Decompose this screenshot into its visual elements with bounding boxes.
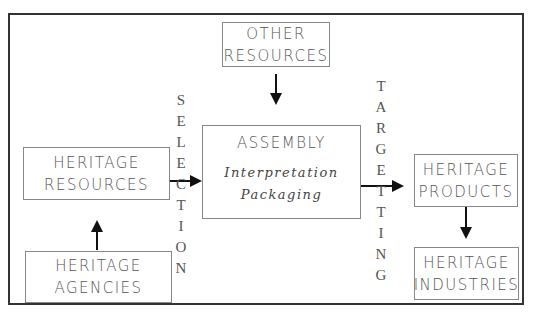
node-label-line: AGENCIES (54, 277, 142, 299)
node-label-line: RESOURCES (44, 174, 149, 196)
letter: N (176, 258, 187, 279)
letter: G (376, 265, 387, 286)
node-label-line: RESOURCES (224, 45, 329, 67)
letter: N (376, 244, 387, 265)
letter: G (376, 139, 387, 160)
letter: E (176, 153, 185, 174)
letter: E (176, 111, 185, 132)
letter: S (177, 90, 185, 111)
node-assembly: ASSEMBLY Interpretation Packaging (202, 125, 361, 219)
node-heritage-resources: HERITAGE RESOURCES (23, 147, 170, 200)
node-label-line: HERITAGE (423, 159, 510, 181)
letter: E (376, 160, 385, 181)
letter: T (176, 195, 185, 216)
node-label-line: HERITAGE (55, 255, 142, 277)
assembly-subline: Packaging (241, 184, 323, 206)
assembly-title: ASSEMBLY (237, 132, 326, 154)
letter: O (176, 237, 187, 258)
node-heritage-products: HERITAGE PRODUCTS (414, 154, 518, 207)
letter: R (376, 118, 386, 139)
assembly-subline: Interpretation (224, 162, 338, 184)
letter: T (376, 181, 385, 202)
node-label-line: INDUSTRIES (414, 274, 520, 296)
node-label-line: PRODUCTS (419, 181, 514, 203)
node-label-line: OTHER (246, 23, 306, 45)
node-label-line: HERITAGE (423, 252, 510, 274)
label-targetting: T A R G E T T I N G (373, 76, 389, 286)
letter: I (179, 216, 184, 237)
node-other-resources: OTHER RESOURCES (222, 22, 330, 67)
letter: T (376, 76, 385, 97)
node-heritage-industries: HERITAGE INDUSTRIES (414, 247, 519, 300)
letter: T (376, 202, 385, 223)
letter: A (376, 97, 387, 118)
letter: L (176, 132, 185, 153)
letter: C (176, 174, 186, 195)
node-label-line: HERITAGE (53, 152, 140, 174)
letter: I (379, 223, 384, 244)
node-heritage-agencies: HERITAGE AGENCIES (25, 251, 172, 303)
label-selection: S E L E C T I O N (173, 90, 189, 279)
